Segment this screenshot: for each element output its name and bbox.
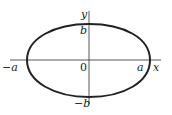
ellipse-diagram: y b −a 0 a x −b: [0, 0, 172, 115]
neg-a-label: −a: [2, 61, 18, 74]
x-axis-label: x: [153, 61, 160, 74]
ellipse-curve: [27, 24, 150, 97]
origin-label: 0: [80, 61, 87, 74]
pos-a-label: a: [137, 61, 144, 74]
pos-b-label: b: [80, 24, 87, 37]
neg-b-label: −b: [74, 97, 90, 110]
y-axis-label: y: [80, 8, 88, 21]
